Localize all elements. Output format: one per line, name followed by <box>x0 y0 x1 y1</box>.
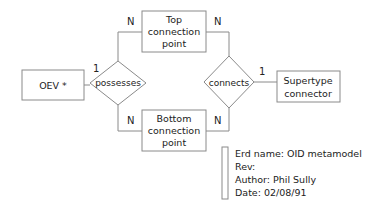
info-bracket <box>222 147 228 199</box>
entity-top-label-line3: point <box>162 38 187 49</box>
cardinality-connects-supertype: 1 <box>259 66 265 77</box>
entity-bottom-label-line3: point <box>162 137 187 148</box>
entity-bottom-label-line2: connection <box>148 125 200 136</box>
info-date: Date: 02/08/91 <box>235 187 307 198</box>
line-top-connects <box>206 32 229 56</box>
info-rev: Rev: <box>235 161 255 172</box>
relationship-connects-label: connects <box>209 78 250 88</box>
cardinality-possesses-bottom: N <box>127 115 134 126</box>
cardinality-connects-top: N <box>214 16 221 27</box>
entity-oev-label: OEV * <box>39 80 67 91</box>
info-erd-name: Erd name: OID metamodel <box>235 148 362 159</box>
entity-bottom-label-line1: Bottom <box>157 113 192 124</box>
cardinality-possesses-top: N <box>127 16 134 27</box>
entity-supertype-label-line2: connector <box>284 88 332 99</box>
er-diagram: OEV * Top connection point Bottom connec… <box>0 0 371 212</box>
cardinality-connects-bottom: N <box>214 115 221 126</box>
entity-top-label-line2: connection <box>148 26 200 37</box>
relationship-possesses-label: possesses <box>95 78 141 88</box>
line-possesses-top <box>118 32 142 61</box>
entity-top-label-line1: Top <box>165 14 182 25</box>
info-author: Author: Phil Sully <box>235 174 316 185</box>
entity-supertype-label-line1: Supertype <box>283 75 332 86</box>
cardinality-possesses-oev: 1 <box>93 63 99 74</box>
